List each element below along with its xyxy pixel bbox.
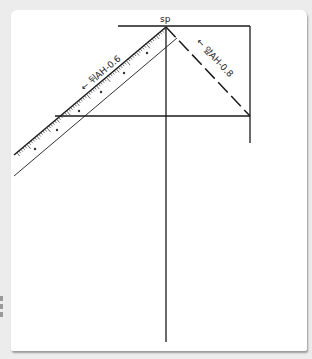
ruler-top-edge	[14, 27, 166, 155]
front-armhole-label: ← 앞AH-0.8	[195, 36, 237, 79]
front-armhole-line	[166, 27, 250, 116]
pattern-diagram: sp ← 뒤AH-0.6 ← 앞AH-0.8	[0, 0, 312, 359]
ruler-dots	[34, 52, 148, 150]
sp-label: sp	[160, 14, 171, 24]
ruler	[14, 27, 177, 176]
ruler-bottom-edge	[14, 38, 177, 176]
